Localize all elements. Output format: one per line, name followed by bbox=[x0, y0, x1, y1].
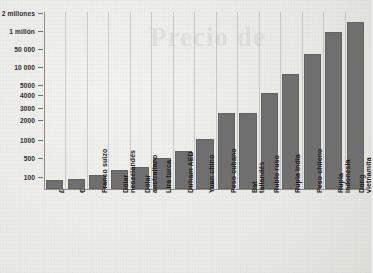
y-tick-mark bbox=[38, 158, 43, 159]
x-axis-label: Rupiaindonesia bbox=[337, 159, 352, 193]
gridline bbox=[173, 12, 174, 189]
y-tick-mark bbox=[38, 85, 43, 86]
x-axis-label: Peso chileno bbox=[316, 149, 324, 193]
x-axis-label: Rupia india bbox=[294, 154, 302, 193]
y-tick-mark bbox=[38, 49, 43, 50]
x-axis-label: Dólaraustraliano bbox=[144, 155, 159, 193]
x-axis-label: Peso cubano bbox=[230, 148, 238, 193]
x-axis-label: € bbox=[79, 189, 87, 193]
y-tick-label: 500 bbox=[24, 155, 35, 162]
gridline bbox=[65, 12, 66, 189]
y-tick-label: 3000 bbox=[20, 105, 35, 112]
x-axis-label: Rublo ruso bbox=[273, 155, 281, 193]
y-tick-mark bbox=[38, 95, 43, 96]
y-tick-mark bbox=[38, 140, 43, 141]
y-tick-label: 50 000 bbox=[14, 46, 35, 53]
y-tick-label: 1000 bbox=[20, 137, 35, 144]
y-tick-label: 100 bbox=[24, 174, 35, 181]
x-axis-label: Dirham AED bbox=[187, 151, 195, 193]
x-axis-label: Dongvietnamita bbox=[358, 157, 373, 193]
x-axis-label: Franco suizo bbox=[101, 149, 109, 193]
x-axis-label: Yuan chino bbox=[208, 155, 216, 193]
y-tick-label: 2000 bbox=[20, 117, 35, 124]
y-tick-label: 5000 bbox=[20, 82, 35, 89]
gridline bbox=[302, 12, 303, 189]
y-tick-mark bbox=[38, 13, 43, 14]
y-tick-label: 10 000 bbox=[14, 64, 35, 71]
y-tick-label: 2 millones bbox=[2, 10, 35, 17]
y-tick-mark bbox=[38, 31, 43, 32]
y-tick-mark bbox=[38, 120, 43, 121]
y-tick-label: 1 millón bbox=[9, 28, 35, 35]
x-axis-label: Lira turca bbox=[165, 160, 173, 193]
bar[interactable] bbox=[68, 179, 85, 189]
y-tick-mark bbox=[38, 108, 43, 109]
y-tick-label: 4000 bbox=[20, 92, 35, 99]
gridline bbox=[216, 12, 217, 189]
y-tick-mark bbox=[38, 67, 43, 68]
bar[interactable] bbox=[46, 180, 63, 189]
x-axis-label: £ bbox=[58, 189, 66, 193]
gridline bbox=[87, 12, 88, 189]
x-axis-label: Dólarneozelandés bbox=[122, 150, 137, 193]
x-axis-label: Battailandés bbox=[251, 162, 266, 193]
y-tick-mark bbox=[38, 177, 43, 178]
